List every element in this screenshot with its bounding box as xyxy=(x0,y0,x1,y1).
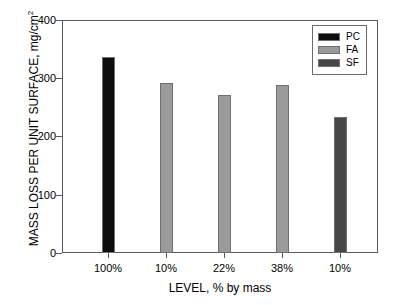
legend-swatch-pc xyxy=(318,33,340,41)
bar-fa-38 xyxy=(276,85,289,253)
x-tick-mark xyxy=(224,253,225,258)
bar-fa-10 xyxy=(160,83,173,253)
x-tick-mark xyxy=(340,253,341,258)
bar-fa-22 xyxy=(218,95,231,253)
x-tick-label: 22% xyxy=(194,262,254,274)
legend-item-fa: FA xyxy=(318,44,360,56)
y-tick-mark xyxy=(56,253,62,254)
chart-figure: 400 300 200 100 0 100% 10% 22% 38% 10% L… xyxy=(0,0,393,305)
x-tick-label: 10% xyxy=(310,262,370,274)
legend-label-pc: PC xyxy=(346,32,360,42)
legend-label-sf: SF xyxy=(346,58,359,68)
legend-swatch-fa xyxy=(318,46,340,54)
legend-label-fa: FA xyxy=(346,45,358,55)
bar-pc-100 xyxy=(102,57,115,253)
x-axis-title: LEVEL, % by mass xyxy=(62,281,378,295)
y-axis-title-text: MASS LOSS PER UNIT SURFACE, mg/cm xyxy=(27,15,41,246)
legend-swatch-sf xyxy=(318,59,340,67)
bar-sf-10 xyxy=(334,117,347,253)
x-tick-mark xyxy=(108,253,109,258)
x-tick-mark xyxy=(282,253,283,258)
y-axis-title: MASS LOSS PER UNIT SURFACE, mg/cm2 xyxy=(24,9,41,249)
x-tick-label: 38% xyxy=(252,262,312,274)
chart-legend: PC FA SF xyxy=(312,25,367,75)
y-axis-title-superscript: 2 xyxy=(26,11,35,15)
x-tick-label: 100% xyxy=(78,262,138,274)
legend-item-pc: PC xyxy=(318,31,360,43)
x-tick-label: 10% xyxy=(136,262,196,274)
legend-item-sf: SF xyxy=(318,57,360,69)
y-tick-label: 0 xyxy=(14,248,56,259)
x-tick-mark xyxy=(166,253,167,258)
